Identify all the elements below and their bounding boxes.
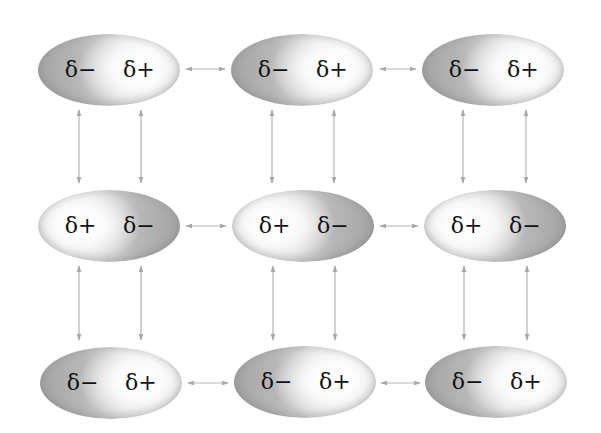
partial-negative-charge: δ−	[317, 215, 349, 237]
polar-molecule: δ− δ+	[425, 346, 567, 418]
partial-positive-charge: δ+	[316, 59, 348, 81]
partial-negative-charge: δ−	[509, 215, 541, 237]
polar-molecule: δ+ δ−	[232, 190, 374, 262]
partial-positive-charge: δ+	[125, 372, 157, 394]
dipole-lattice-diagram: δ− δ+ δ− δ+ δ− δ+ δ+ δ− δ+ δ− δ+ δ− δ− δ…	[0, 0, 601, 433]
polar-molecule: δ− δ+	[422, 34, 564, 106]
partial-negative-charge: δ−	[258, 59, 290, 81]
polar-molecule: δ− δ+	[231, 34, 373, 106]
polar-molecule: δ− δ+	[40, 347, 182, 419]
partial-positive-charge: δ+	[123, 59, 155, 81]
polar-molecule: δ+ δ−	[38, 190, 180, 262]
partial-negative-charge: δ−	[261, 371, 293, 393]
partial-positive-charge: δ+	[451, 215, 483, 237]
polar-molecule: δ− δ+	[38, 34, 180, 106]
partial-positive-charge: δ+	[259, 215, 291, 237]
partial-negative-charge: δ−	[452, 371, 484, 393]
polar-molecule: δ+ δ−	[424, 190, 566, 262]
partial-negative-charge: δ−	[123, 215, 155, 237]
partial-negative-charge: δ−	[67, 372, 99, 394]
polar-molecule: δ− δ+	[234, 346, 376, 418]
partial-positive-charge: δ+	[507, 59, 539, 81]
partial-positive-charge: δ+	[65, 215, 97, 237]
partial-positive-charge: δ+	[510, 371, 542, 393]
partial-negative-charge: δ−	[65, 59, 97, 81]
partial-positive-charge: δ+	[319, 371, 351, 393]
partial-negative-charge: δ−	[449, 59, 481, 81]
